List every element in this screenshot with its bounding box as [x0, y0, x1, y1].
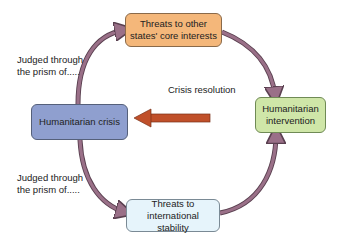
node-label: Threats to international stability [131, 198, 215, 234]
node-humanitarian-intervention: Humanitarian intervention [255, 97, 326, 133]
label-crisis-resolution: Crisis resolution [168, 84, 236, 96]
node-label: Humanitarian intervention [260, 103, 321, 127]
label-judged-bottom: Judged through the prism of..... [17, 172, 83, 196]
node-humanitarian-crisis: Humanitarian crisis [31, 104, 128, 140]
node-threats-international-stability: Threats to international stability [126, 199, 220, 232]
node-label: Humanitarian crisis [39, 116, 120, 128]
label-judged-top: Judged through the prism of..... [17, 54, 83, 78]
crisis-resolution-arrow [134, 109, 210, 127]
node-threats-core-interests: Threats to other states' core interests [125, 13, 222, 47]
node-label: Threats to other states' core interests [130, 18, 217, 42]
